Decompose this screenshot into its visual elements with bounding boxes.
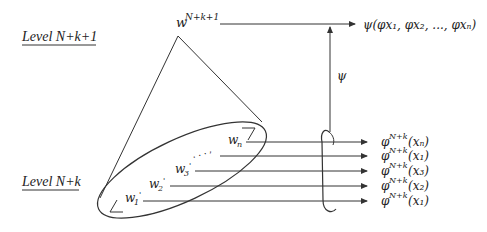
node-w1: w 1 ': [125, 190, 141, 207]
output-label-4: φ N+k (x₁): [381, 191, 429, 208]
svg-text:n: n: [237, 140, 242, 149]
svg-text:': ': [189, 161, 191, 170]
psi-label: ψ: [337, 69, 347, 83]
svg-text:Level N+k: Level N+k: [21, 174, 82, 189]
svg-text:Level N+k+1: Level N+k+1: [21, 29, 97, 44]
node-w3: w 3 ': [175, 161, 191, 178]
cone-right-edge: [178, 36, 262, 122]
nodes-ellipsis: . . . ,: [191, 144, 213, 160]
svg-text:N+k: N+k: [388, 132, 408, 141]
node-w2: w 2 ': [149, 176, 165, 193]
corner-mark-start: [110, 200, 123, 212]
svg-text:1: 1: [134, 198, 139, 207]
top-output-label: ψ(φx₁, φx₂, ..., φxₙ): [363, 18, 476, 32]
cone-left-edge: [100, 36, 178, 198]
svg-text:N+k: N+k: [388, 146, 408, 155]
level-label-lower: Level N+k: [21, 174, 82, 190]
svg-text:N+k: N+k: [388, 161, 408, 170]
top-node-label: w N+k+1: [176, 12, 219, 30]
svg-text:(xₙ): (xₙ): [408, 135, 429, 149]
svg-text:N+k: N+k: [388, 176, 408, 185]
svg-text:': ': [163, 176, 165, 185]
svg-text:(x₁): (x₁): [408, 194, 429, 208]
corner-mark-end: [242, 128, 255, 140]
svg-text:(x₂): (x₂): [408, 179, 429, 193]
svg-text:3: 3: [184, 169, 189, 178]
bundle-bracket-top: [329, 132, 334, 145]
svg-text:': ': [139, 190, 141, 199]
svg-text:2: 2: [157, 184, 163, 193]
hierarchy-diagram: Level N+k+1 Level N+k w N+k+1 ψ(φx₁, φx₂…: [0, 0, 487, 232]
svg-text:(x₃): (x₃): [408, 164, 429, 178]
node-wn: w n: [228, 133, 242, 149]
svg-text:N+k+1: N+k+1: [184, 12, 219, 22]
svg-text:(x₁): (x₁): [408, 149, 429, 163]
svg-text:N+k: N+k: [388, 191, 408, 200]
level-label-upper: Level N+k+1: [21, 29, 97, 45]
